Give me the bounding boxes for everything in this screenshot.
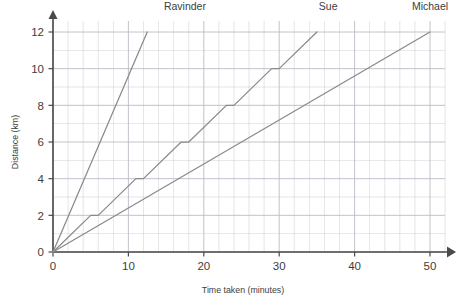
x-tick-label: 30 [273, 260, 286, 272]
x-axis-title: Time taken (minutes) [202, 285, 284, 295]
distance-time-chart: 01020304050024681012 RavinderSueMichael … [0, 0, 461, 301]
y-tick-label: 0 [38, 246, 44, 258]
y-tick-label: 2 [38, 210, 44, 222]
y-tick-label: 4 [38, 173, 45, 185]
x-tick-label: 0 [50, 260, 56, 272]
y-tick-label: 6 [38, 136, 44, 148]
y-axis-arrowhead [49, 10, 58, 19]
x-tick-label: 20 [197, 260, 210, 272]
x-tick-label: 50 [424, 260, 437, 272]
series-label-ravinder: Ravinder [164, 0, 207, 12]
axes [49, 10, 457, 258]
y-tick-label: 12 [31, 26, 44, 38]
x-tick-label: 10 [122, 260, 135, 272]
y-axis-title: Distance (km) [10, 115, 20, 169]
series-label-sue: Sue [319, 0, 338, 12]
y-tick-label: 8 [38, 100, 44, 112]
x-tick-label: 40 [348, 260, 361, 272]
series-labels: RavinderSueMichael [164, 0, 448, 12]
chart-canvas: 01020304050024681012 RavinderSueMichael … [0, 0, 461, 301]
x-axis-arrowhead [447, 247, 456, 258]
y-tick-label: 10 [31, 63, 44, 75]
series-label-michael: Michael [412, 0, 448, 12]
